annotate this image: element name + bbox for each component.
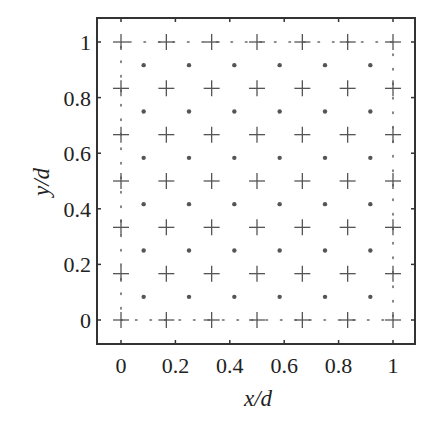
- dot-marker: [187, 156, 191, 160]
- dot-marker: [141, 202, 145, 206]
- cross-marker: [294, 127, 310, 143]
- dot-marker: [187, 63, 191, 67]
- cross-marker: [294, 80, 310, 96]
- cross-marker: [113, 34, 129, 50]
- dot-marker: [141, 109, 145, 113]
- cross-marker: [340, 173, 356, 189]
- cross-marker: [385, 266, 401, 282]
- cross-marker: [249, 173, 265, 189]
- cross-marker: [249, 127, 265, 143]
- y-tick-label: 0.4: [64, 197, 92, 222]
- dot-marker: [323, 109, 327, 113]
- cross-marker: [249, 266, 265, 282]
- cross-markers: [113, 34, 401, 328]
- cross-marker: [385, 80, 401, 96]
- cross-marker: [385, 34, 401, 50]
- cross-marker: [385, 312, 401, 328]
- dot-marker: [232, 295, 236, 299]
- cross-marker: [204, 127, 220, 143]
- cross-marker: [158, 266, 174, 282]
- dot-marker: [277, 202, 281, 206]
- dot-marker: [323, 156, 327, 160]
- cross-marker: [113, 266, 129, 282]
- cross-marker: [204, 173, 220, 189]
- cross-marker: [113, 127, 129, 143]
- x-axis-label: x/d: [243, 386, 273, 411]
- dot-marker: [323, 202, 327, 206]
- cross-marker: [385, 173, 401, 189]
- cross-marker: [113, 312, 129, 328]
- axis-ticks: 00.20.40.60.8100.20.40.60.81: [64, 18, 416, 378]
- chart: 00.20.40.60.8100.20.40.60.81 x/d y/d: [0, 0, 435, 428]
- y-tick-label: 1: [80, 30, 91, 55]
- cross-marker: [249, 80, 265, 96]
- dot-marker: [368, 248, 372, 252]
- dot-marker: [368, 109, 372, 113]
- dot-marker: [277, 156, 281, 160]
- cross-marker: [294, 266, 310, 282]
- y-tick-label: 0: [80, 308, 91, 333]
- cross-marker: [294, 219, 310, 235]
- cross-marker: [113, 173, 129, 189]
- cross-marker: [158, 80, 174, 96]
- x-tick-label: 0.6: [270, 353, 298, 378]
- dot-marker: [368, 63, 372, 67]
- dot-marker: [232, 202, 236, 206]
- cross-marker: [340, 219, 356, 235]
- dot-marker: [232, 248, 236, 252]
- dot-marker: [187, 295, 191, 299]
- dot-marker: [232, 109, 236, 113]
- dot-marker: [141, 295, 145, 299]
- cross-marker: [204, 80, 220, 96]
- x-tick-label: 0.4: [216, 353, 244, 378]
- cross-marker: [385, 127, 401, 143]
- cross-marker: [249, 312, 265, 328]
- cross-marker: [294, 312, 310, 328]
- dot-marker: [232, 63, 236, 67]
- cross-marker: [385, 219, 401, 235]
- dot-marker: [232, 156, 236, 160]
- dot-marker: [368, 156, 372, 160]
- cross-marker: [340, 127, 356, 143]
- cross-marker: [340, 34, 356, 50]
- dot-marker: [141, 156, 145, 160]
- dot-marker: [277, 63, 281, 67]
- cross-marker: [294, 34, 310, 50]
- cross-marker: [249, 34, 265, 50]
- y-tick-label: 0.2: [64, 252, 92, 277]
- dot-marker: [323, 295, 327, 299]
- dot-marker: [141, 63, 145, 67]
- cross-marker: [204, 266, 220, 282]
- dot-marker: [368, 202, 372, 206]
- dot-marker: [368, 295, 372, 299]
- dot-marker: [323, 63, 327, 67]
- cross-marker: [294, 173, 310, 189]
- cross-marker: [113, 80, 129, 96]
- x-tick-label: 0.8: [325, 353, 353, 378]
- dot-marker: [323, 248, 327, 252]
- cross-marker: [113, 219, 129, 235]
- cross-marker: [158, 312, 174, 328]
- cross-marker: [340, 80, 356, 96]
- cross-marker: [158, 173, 174, 189]
- cross-marker: [204, 34, 220, 50]
- y-tick-label: 0.8: [64, 86, 92, 111]
- cross-marker: [340, 266, 356, 282]
- dot-marker: [187, 248, 191, 252]
- cross-marker: [340, 312, 356, 328]
- cross-marker: [249, 219, 265, 235]
- y-axis-label: y/d: [29, 167, 54, 198]
- cross-marker: [158, 34, 174, 50]
- dot-marker: [277, 248, 281, 252]
- dot-marker: [187, 202, 191, 206]
- cross-marker: [158, 219, 174, 235]
- x-tick-label: 1: [388, 353, 399, 378]
- cross-marker: [204, 219, 220, 235]
- cross-marker: [204, 312, 220, 328]
- dot-marker: [277, 109, 281, 113]
- dot-marker: [141, 248, 145, 252]
- dot-marker: [277, 295, 281, 299]
- x-tick-label: 0: [116, 353, 127, 378]
- cross-marker: [158, 127, 174, 143]
- dot-marker: [187, 109, 191, 113]
